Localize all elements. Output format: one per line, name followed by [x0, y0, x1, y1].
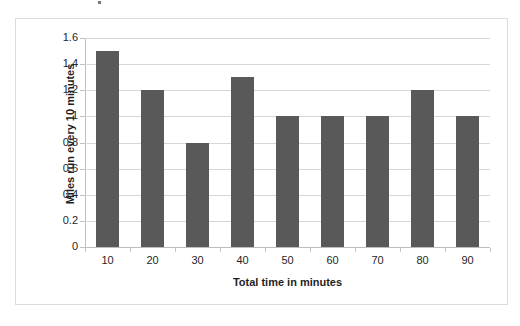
- y-axis-tick-mark: [80, 90, 85, 91]
- y-axis-tick-label: 1: [32, 110, 78, 121]
- x-axis-tick-mark: [220, 248, 221, 252]
- x-axis-tick-mark: [85, 248, 86, 252]
- x-axis-tick-label: 50: [268, 254, 308, 267]
- y-axis-tick-label: 1.2: [32, 84, 78, 95]
- y-axis-tick-mark: [80, 195, 85, 196]
- y-axis-tick-label: 0.8: [32, 137, 78, 148]
- x-axis-tick-mark: [490, 248, 491, 252]
- bar: [231, 77, 254, 247]
- y-axis-tick-label: 1.6: [32, 32, 78, 43]
- y-axis-tick-label: 1.4: [32, 58, 78, 69]
- x-axis-tick-mark: [355, 248, 356, 252]
- x-axis-tick-label: 40: [223, 254, 263, 267]
- scan-artifact: [98, 1, 101, 4]
- y-axis-tick-mark: [80, 38, 85, 39]
- y-axis-tick-mark: [80, 116, 85, 117]
- bar: [141, 90, 164, 247]
- bar: [456, 116, 479, 247]
- bar: [276, 116, 299, 247]
- bar: [321, 116, 344, 247]
- plot-area: [85, 38, 490, 247]
- x-axis-tick-mark: [175, 248, 176, 252]
- gridline: [85, 64, 490, 65]
- x-axis-tick-label: 90: [448, 254, 488, 267]
- x-axis-tick-label: 70: [358, 254, 398, 267]
- x-axis-tick-label: 80: [403, 254, 443, 267]
- x-axis-tick-label: 30: [178, 254, 218, 267]
- bar: [96, 51, 119, 247]
- x-axis-tick-mark: [265, 248, 266, 252]
- bar: [366, 116, 389, 247]
- y-axis-tick-label: 0.4: [32, 189, 78, 200]
- x-axis-tick-label: 20: [133, 254, 173, 267]
- x-axis-tick-mark: [400, 248, 401, 252]
- bar: [411, 90, 434, 247]
- gridline: [85, 38, 490, 39]
- x-axis-tick-mark: [130, 248, 131, 252]
- y-axis-tick-mark: [80, 64, 85, 65]
- y-axis-tick-mark: [80, 221, 85, 222]
- x-axis-tick-label: 60: [313, 254, 353, 267]
- bar: [186, 143, 209, 248]
- y-axis-tick-label: 0.6: [32, 163, 78, 174]
- x-axis-tick-mark: [310, 248, 311, 252]
- gridline: [85, 247, 490, 248]
- y-axis-tick-labels: 00.20.40.60.811.21.41.6: [24, 0, 78, 326]
- y-axis-tick-mark: [80, 143, 85, 144]
- x-axis-tick-mark: [445, 248, 446, 252]
- y-axis-tick-label: 0: [32, 241, 78, 252]
- x-axis-title: Total time in minutes: [85, 276, 490, 288]
- x-axis-tick-label: 10: [88, 254, 128, 267]
- y-axis-tick-label: 0.2: [32, 215, 78, 226]
- y-axis-tick-mark: [80, 169, 85, 170]
